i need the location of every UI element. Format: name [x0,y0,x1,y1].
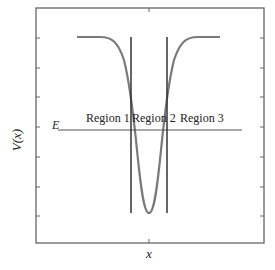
energy-label: E [51,118,60,132]
x-axis-label: x [145,246,152,261]
region-1-label: Region 1 [86,111,130,125]
potential-curve [77,37,220,213]
region-3-label: Region 3 [180,111,224,125]
y-axis-label: V(x) [9,129,24,151]
potential-well-diagram: Region 1 Region 2 Region 3 E x V(x) [0,0,275,270]
region-2-label: Region 2 [132,111,176,125]
plot-frame [36,8,264,243]
